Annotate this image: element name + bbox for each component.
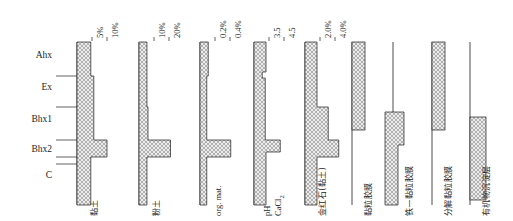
- axis-title-clay: 黏土: [91, 199, 99, 216]
- tick-label-clay-1: 10%: [111, 22, 120, 38]
- tick-label-silt-0: 10%: [158, 22, 167, 38]
- horizon-label-ahx: Ahx: [0, 51, 52, 61]
- profile-bar-org-mat: [200, 42, 231, 205]
- tick-label-ph-0: 3.5: [273, 27, 282, 38]
- tick-label-rutile-0: 2.0%: [324, 20, 333, 38]
- feature-bar-clay-coating: [352, 42, 365, 130]
- soil-profile-chart: [0, 0, 513, 221]
- feature-bar-decomposed-clay-coating: [432, 42, 445, 130]
- profile-bar-clay: [77, 42, 107, 205]
- axis-title-ph-subscript: 2: [278, 195, 285, 198]
- tick-label-org-mat-1: 0.4%: [234, 20, 243, 38]
- tick-label-ph-1: 4.5: [288, 27, 297, 38]
- feature-label-iron-clay-coating: 铁—黏粒胶膜: [406, 166, 414, 216]
- horizon-label-bhx2: Bhx2: [0, 145, 52, 155]
- profile-bar-silt: [139, 42, 171, 205]
- tick-label-clay-0: 5%: [96, 27, 105, 38]
- axis-title-org-mat: org. mat.: [214, 186, 223, 216]
- tick-label-rutile-1: 4.0%: [339, 20, 348, 38]
- horizon-label-ex: Ex: [0, 83, 52, 93]
- axis-title-ph-line1: pH: [263, 206, 272, 216]
- feature-label-organic-precipitate-layer: 有机物沉淀层: [483, 166, 491, 216]
- tick-label-silt-1: 20%: [173, 22, 182, 38]
- axis-title-ph-line2: CaCl2: [274, 195, 285, 216]
- horizon-label-bhx1: Bhx1: [0, 115, 52, 125]
- feature-label-clay-coating: 黏粒胶膜: [365, 182, 373, 216]
- profile-shapes: [56, 37, 486, 205]
- axis-title-rutile: 金红石(黏土): [319, 167, 327, 216]
- axis-title-silt: 粉土: [153, 199, 161, 216]
- horizon-label-c: C: [0, 171, 52, 181]
- tick-label-org-mat-0: 0.2%: [219, 20, 228, 38]
- feature-label-decomposed-clay-coating: 分解黏粒胶膜: [445, 166, 453, 216]
- profile-bar-ph: [254, 42, 280, 205]
- feature-bar-iron-clay-coating: [385, 112, 404, 205]
